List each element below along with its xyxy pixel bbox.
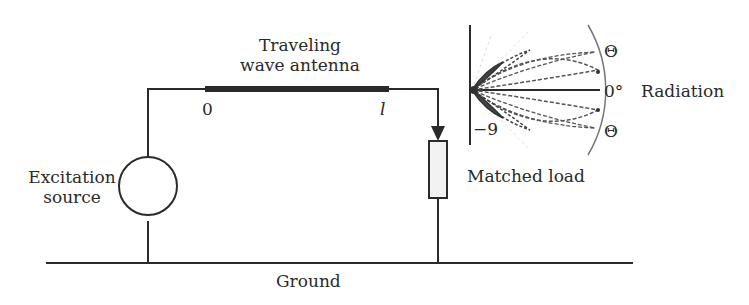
antenna-label-line1: Traveling xyxy=(230,35,370,55)
circuit-diagram xyxy=(0,0,749,305)
antenna-label: Traveling wave antenna xyxy=(230,35,370,75)
ground-label: Ground xyxy=(276,271,341,291)
source-label: Excitation source xyxy=(22,167,122,207)
antenna-end-label: l xyxy=(380,99,385,119)
upper-angle-label: Θ xyxy=(604,41,618,61)
excitation-source-symbol xyxy=(119,157,177,215)
antenna-start-label: 0 xyxy=(202,99,213,119)
load-wire xyxy=(389,89,438,126)
side-lobe-label: −9 xyxy=(473,119,498,139)
current-arrow-icon xyxy=(431,126,445,141)
lower-angle-label: Θ xyxy=(604,121,618,141)
antenna-label-line2: wave antenna xyxy=(230,55,370,75)
source-label-line2: source xyxy=(22,187,122,207)
load-label: Matched load xyxy=(467,166,585,186)
axis-angle-label: 0° xyxy=(604,81,623,101)
feed-wire xyxy=(148,89,205,157)
matched-load-resistor xyxy=(429,141,447,198)
source-label-line1: Excitation xyxy=(22,167,122,187)
radiation-label: Radiation xyxy=(641,81,724,101)
